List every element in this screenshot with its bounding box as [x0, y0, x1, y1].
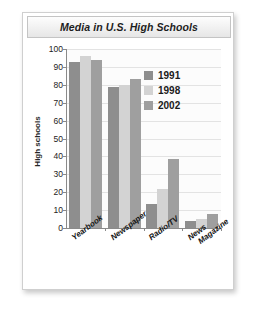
- bar: [108, 87, 119, 228]
- bar: [91, 60, 102, 228]
- y-axis-line: [66, 49, 67, 229]
- bar-group: [69, 49, 102, 228]
- y-axis-tick-mark: [63, 210, 66, 211]
- y-axis-tick-mark: [63, 49, 66, 50]
- y-axis-tick-mark: [63, 228, 66, 229]
- y-axis-tick-mark: [63, 85, 66, 86]
- legend-item: 1991: [144, 68, 210, 83]
- legend-swatch: [144, 86, 153, 95]
- y-axis-tick-label: 60: [39, 117, 63, 125]
- legend-label: 1991: [158, 70, 180, 81]
- legend-item: 2002: [144, 98, 210, 113]
- bar: [119, 85, 130, 228]
- y-axis-tick-mark: [63, 103, 66, 104]
- y-axis-tick-label: 90: [39, 63, 63, 71]
- bar: [69, 62, 80, 228]
- legend-label: 1998: [158, 85, 180, 96]
- bar: [80, 56, 91, 228]
- y-axis-tick-mark: [63, 139, 66, 140]
- y-axis-tick-label: 100: [39, 45, 63, 53]
- y-axis-tick-mark: [63, 67, 66, 68]
- legend-label: 2002: [158, 100, 180, 111]
- legend-swatch: [144, 101, 153, 110]
- y-axis-tick-mark: [63, 121, 66, 122]
- y-axis-tick-label: 50: [39, 135, 63, 143]
- bar-group: [108, 49, 141, 228]
- legend-swatch: [144, 71, 153, 80]
- y-axis-tick-label: 80: [39, 81, 63, 89]
- y-axis-tick-label: 10: [39, 206, 63, 214]
- y-axis-tick-label: 20: [39, 188, 63, 196]
- y-axis-tick-mark: [63, 174, 66, 175]
- y-axis-tick-label: 0: [39, 224, 63, 232]
- y-axis-tick-mark: [63, 192, 66, 193]
- y-axis-tick-labels: 0102030405060708090100: [35, 41, 63, 241]
- chart-title-box: Media in U.S. High Schools: [27, 16, 231, 38]
- x-axis-tick-mark: [182, 228, 183, 231]
- y-axis-tick-label: 30: [39, 170, 63, 178]
- x-axis-tick-mark: [105, 228, 106, 231]
- legend-item: 1998: [144, 83, 210, 98]
- x-axis-tick-mark: [221, 228, 222, 231]
- y-axis-tick-mark: [63, 156, 66, 157]
- y-axis-tick-label: 40: [39, 152, 63, 160]
- bar: [130, 79, 141, 228]
- chart-card: Media in U.S. High Schools High schools …: [22, 12, 234, 290]
- chart-legend: 199119982002: [144, 68, 210, 113]
- y-axis-tick-label: 70: [39, 99, 63, 107]
- x-axis-tick-mark: [144, 228, 145, 231]
- page-title: Media in U.S. High Schools: [60, 21, 198, 33]
- bar-chart: High schools 0102030405060708090100 Year…: [23, 41, 233, 289]
